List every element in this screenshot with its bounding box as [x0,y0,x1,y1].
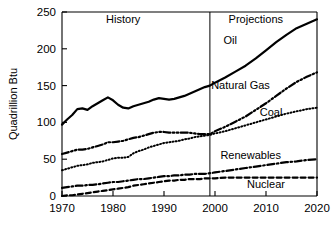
y-tick-label: 100 [37,116,56,128]
y-tick-label: 50 [43,153,56,165]
y-axis-title: Quadrillion Btu [7,68,19,140]
projections-label: Projections [229,13,284,25]
x-tick-label: 2010 [253,202,279,214]
series-label-oil: Oil [224,34,237,46]
chart-container: 050100150200250 197019801990200020102020… [0,0,335,232]
x-tick-label: 1970 [49,202,75,214]
x-tick-label: 1980 [100,202,126,214]
y-tick-label: 0 [50,190,56,202]
series-label-natural-gas: Natural Gas [211,79,270,91]
y-tick-label: 250 [37,6,56,18]
series-label-coal: Coal [260,106,283,118]
y-tick-label: 200 [37,43,56,55]
series-label-renewables: Renewables [220,149,281,161]
history-label: History [106,13,141,25]
y-tick-label: 150 [37,80,56,92]
x-tick-label: 1990 [151,202,177,214]
x-tick-label: 2020 [304,202,330,214]
x-tick-label: 2000 [202,202,228,214]
series-label-nuclear: Nuclear [247,178,285,190]
energy-consumption-line-chart: 050100150200250 197019801990200020102020… [0,0,335,232]
